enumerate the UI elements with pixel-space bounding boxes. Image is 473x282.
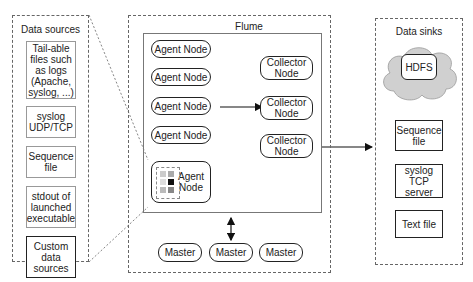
sink-syslog-tcp: syslog TCP server (395, 164, 443, 198)
hdfs-box: HDFS (401, 54, 437, 80)
data-sources-panel: Data sources Tail-able files such as log… (12, 15, 89, 262)
master-node: Master (158, 243, 202, 262)
collector-node: Collector Node (260, 56, 313, 80)
master-node: Master (209, 243, 253, 262)
flume-title: Flume (229, 21, 269, 32)
source-grid-icon (156, 167, 180, 199)
agent-node: Agent Node (151, 68, 211, 86)
collector-node: Collector Node (260, 134, 313, 158)
source-stdout: stdout of launched executable (26, 186, 76, 228)
collector-node: Collector Node (260, 96, 313, 120)
agent-node: Agent Node (151, 97, 211, 115)
master-node: Master (259, 243, 303, 262)
source-custom: Custom data sources (26, 236, 76, 278)
data-sources-title: Data sources (13, 24, 88, 35)
agent-node-label: Agent Node (178, 171, 204, 193)
source-tailable-files: Tail-able files such as logs (Apache, sy… (26, 41, 76, 99)
source-syslog: syslog UDP/TCP (26, 106, 76, 138)
sink-sequence-file: Sequence file (395, 120, 443, 151)
agent-node: Agent Node (151, 126, 211, 144)
data-sinks-title: Data sinks (376, 26, 462, 37)
source-sequence-file: Sequence file (26, 146, 76, 178)
sink-text-file: Text file (395, 210, 443, 238)
agent-node: Agent Node (151, 40, 211, 58)
data-sinks-panel: Data sinks HDFS Sequence file syslog TCP… (375, 18, 463, 265)
agent-node-expanded: Agent Node (151, 161, 211, 203)
